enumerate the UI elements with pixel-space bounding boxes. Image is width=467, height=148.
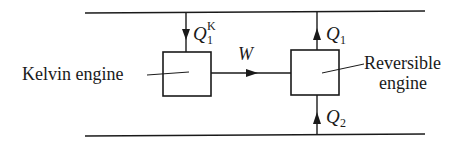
work-arrow-icon <box>246 69 258 77</box>
q1k-label-sub: 1 <box>207 33 213 47</box>
reversible-engine-box <box>291 50 339 95</box>
q1k-label-sup: K <box>207 19 216 33</box>
q1k-label-symbol: Q <box>193 23 207 44</box>
q2-arrow-icon <box>313 112 321 124</box>
q1-arrow-icon <box>313 28 321 40</box>
q1-label-sub: 1 <box>340 33 346 47</box>
q1-label-symbol: Q <box>326 23 340 44</box>
cold-reservoir-line <box>85 134 425 136</box>
hot-reservoir-line <box>85 11 425 13</box>
kelvin-engine-label: Kelvin engine <box>22 64 123 84</box>
q2-label-symbol: Q <box>326 106 340 127</box>
q1k-arrow-icon <box>182 29 190 40</box>
reversible-engine-label-line1: Reversible <box>364 53 441 73</box>
reversible-engine-label-line2: engine <box>379 73 427 93</box>
work-label: W <box>238 44 255 64</box>
kelvin-leader-line <box>147 72 189 75</box>
heat-engine-diagram: Kelvin engine Reversible engine Q K 1 W … <box>0 0 467 148</box>
kelvin-engine-box <box>163 52 211 96</box>
q2-label-sub: 2 <box>340 116 346 130</box>
reversible-leader-line <box>322 64 364 73</box>
